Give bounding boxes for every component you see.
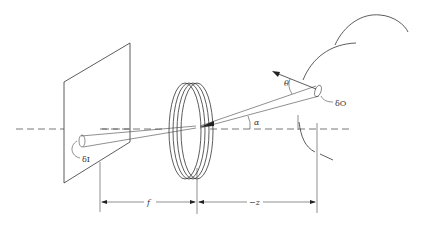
dimension-focal-length: f xyxy=(101,198,196,207)
theta-angle: θ xyxy=(284,79,292,94)
image-plane xyxy=(64,43,130,183)
surface-normal-arrow xyxy=(272,71,316,89)
lens xyxy=(169,83,213,179)
object-distance-label: −z xyxy=(249,198,261,207)
object-surface xyxy=(299,15,408,160)
image-element-label-group: δI xyxy=(72,141,90,164)
object-element-label: δO xyxy=(335,99,347,108)
theta-label: θ xyxy=(284,79,289,88)
image-element-label: δI xyxy=(82,155,90,164)
focal-length-label: f xyxy=(146,198,152,207)
object-element-label-group: δO xyxy=(321,96,347,108)
optical-diagram: δI θ α δO xyxy=(0,0,422,226)
image-element-ellipse xyxy=(79,135,85,147)
alpha-angle: α xyxy=(248,116,260,129)
dimension-object-distance: −z xyxy=(198,198,316,207)
alpha-label: α xyxy=(254,118,260,127)
object-light-cone xyxy=(200,84,323,128)
dimension-extension-lines xyxy=(100,123,317,214)
